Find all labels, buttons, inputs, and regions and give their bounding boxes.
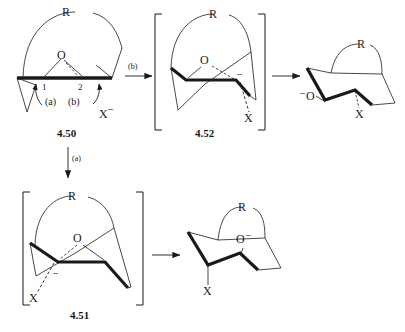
compound-label-4-50: 4.50 — [57, 128, 76, 139]
alkoxide-label-product-bottom: O — [236, 233, 245, 245]
product-bottom-right-graphic — [188, 207, 281, 285]
r-group-label-4-52: R — [209, 8, 217, 20]
alkoxide-charge-product-top: – — [300, 88, 305, 98]
r-group-label-product-top: R — [357, 38, 365, 50]
position-2-label: 2 — [78, 83, 83, 92]
r-group-label-4-51: R — [68, 190, 76, 202]
oxygen-label-4-51: O — [73, 232, 82, 244]
arrow-b-condition-label: (b) — [128, 63, 137, 71]
leaving-group-label-4-51: X — [29, 292, 38, 304]
substituent-x-product-bottom: X — [203, 285, 212, 297]
charge-label-4-51: – — [53, 268, 58, 278]
pathway-b-label-4-50: (b) — [68, 97, 80, 107]
r-group-label-4-50: R — [62, 6, 70, 18]
charge-label-4-52: – — [237, 69, 242, 79]
compound-label-4-51: 4.51 — [70, 310, 89, 321]
r-group-label-product-bottom: R — [238, 201, 246, 213]
alkoxide-label-product-top: O — [306, 90, 315, 102]
alkoxide-charge-product-bottom: – — [246, 230, 251, 240]
oxygen-label-4-50: O — [57, 49, 66, 61]
arrow-a-condition-label: (a) — [72, 155, 81, 163]
oxygen-label-4-52: O — [200, 54, 209, 66]
nucleophile-charge-label: – — [108, 104, 113, 114]
substituent-x-product-top: X — [355, 108, 364, 120]
nucleophile-x-label: X — [99, 108, 108, 120]
structure-4-52-graphic — [171, 14, 256, 112]
compound-label-4-52: 4.52 — [195, 128, 214, 139]
pathway-a-label-4-50: (a) — [45, 97, 56, 107]
leaving-group-label-4-52: X — [244, 112, 253, 124]
position-1-label: 1 — [42, 83, 47, 92]
reaction-scheme-canvas: R O 1 2 (a) (b) X – 4.50 (b) R O – X 4.5… — [0, 0, 405, 332]
product-top-right-graphic — [307, 44, 395, 108]
